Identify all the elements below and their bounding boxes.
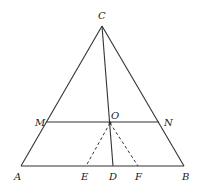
segment-ac (21, 26, 102, 166)
label-n: N (163, 117, 174, 128)
segment-oe (86, 123, 110, 166)
segment-of (110, 123, 138, 166)
label-m: M (34, 117, 46, 128)
point-labels: A B C M N O D E F (13, 10, 189, 182)
label-c: C (98, 10, 106, 21)
segment-bc (102, 26, 184, 166)
label-e: E (80, 171, 89, 182)
label-d: D (108, 171, 117, 182)
segment-cd (102, 26, 113, 166)
label-b: B (181, 171, 189, 182)
geometry-diagram: A B C M N O D E F (0, 0, 198, 189)
label-f: F (134, 171, 143, 182)
label-o: O (111, 110, 119, 121)
label-a: A (13, 171, 21, 182)
point-o-marker (109, 122, 112, 125)
solid-segments (21, 26, 184, 166)
